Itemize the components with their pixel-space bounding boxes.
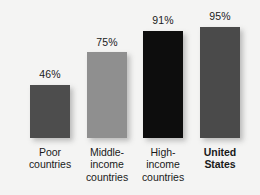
bar-group-poor-countries: 46% Poor countries <box>22 0 78 195</box>
category-label-united-states: United States <box>192 146 248 171</box>
bar-group-middle-income-countries: 75% Middle- income countries <box>79 0 135 195</box>
category-label-line: income <box>135 158 191 170</box>
bar-middle-income-countries <box>87 52 127 138</box>
bar-chart: 46% Poor countries 75% Middle- income co… <box>0 0 260 195</box>
category-label-line: United <box>192 146 248 158</box>
value-label-middle-income-countries: 75% <box>79 37 135 48</box>
category-label-line: High- <box>135 146 191 158</box>
category-label-poor-countries: Poor countries <box>22 146 78 171</box>
value-label-united-states: 95% <box>192 11 248 22</box>
bar-poor-countries <box>30 85 70 138</box>
category-label-line: countries <box>22 158 78 170</box>
bar-group-united-states: 95% United States <box>192 0 248 195</box>
bar-high-income-countries <box>143 31 183 138</box>
category-label-line: countries <box>79 171 135 183</box>
category-label-middle-income-countries: Middle- income countries <box>79 146 135 183</box>
category-label-high-income-countries: High- income countries <box>135 146 191 183</box>
category-label-line: States <box>192 158 248 170</box>
category-label-line: Poor <box>22 146 78 158</box>
category-label-line: income <box>79 158 135 170</box>
category-label-line: Middle- <box>79 146 135 158</box>
value-label-high-income-countries: 91% <box>135 15 191 26</box>
value-label-poor-countries: 46% <box>22 69 78 80</box>
category-label-line: countries <box>135 171 191 183</box>
bar-group-high-income-countries: 91% High- income countries <box>135 0 191 195</box>
bar-united-states <box>200 27 240 138</box>
